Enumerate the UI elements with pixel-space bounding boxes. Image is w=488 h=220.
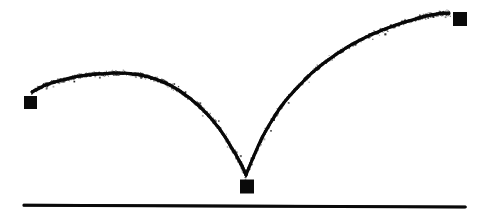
first-arc-grain [185, 91, 187, 93]
second-arc-grain [296, 88, 297, 89]
second-arc-grain [433, 16, 435, 18]
second-arc-grain [342, 51, 343, 52]
first-arc-grain [227, 146, 229, 148]
first-arc-grain [121, 73, 123, 75]
first-arc-grain [141, 73, 143, 75]
second-arc-grain [262, 135, 263, 136]
second-arc-grain [404, 20, 406, 22]
first-arc-grain [162, 81, 163, 82]
first-arc-grain [235, 158, 237, 160]
second-arc-grain [309, 82, 310, 83]
first-arc-grain [196, 104, 197, 105]
first-arc-grain [165, 82, 167, 84]
first-arc-grain [200, 105, 202, 107]
second-arc-grain [293, 90, 295, 92]
second-arc-grain [251, 157, 253, 159]
first-arc-grain [46, 88, 48, 90]
first-arc-grain [115, 71, 116, 72]
first-arc-grain [63, 81, 64, 82]
second-arc-grain [342, 47, 343, 48]
first-arc-grain [174, 87, 176, 89]
first-arc-grain [226, 134, 227, 135]
first-arc-grain [142, 73, 143, 74]
first-arc-grain [32, 93, 33, 94]
second-arc-grain [251, 161, 252, 162]
first-arc-grain [73, 81, 75, 83]
first-arc-grain [200, 107, 201, 108]
first-arc-grain [57, 78, 59, 80]
second-arc-grain [419, 15, 421, 17]
second-arc-grain [440, 13, 442, 15]
first-arc-grain [106, 71, 107, 72]
first-arc-grain [209, 113, 210, 114]
second-arc-grain [370, 37, 371, 38]
second-arc-grain [249, 169, 250, 170]
second-arc-grain [263, 138, 265, 140]
second-arc-grain [372, 39, 373, 40]
first-arc-grain [44, 85, 45, 86]
second-arc-grain [402, 20, 403, 21]
first-arc-grain [234, 152, 235, 153]
second-arc-grain [355, 44, 357, 46]
second-arc-grain [450, 16, 451, 17]
second-arc-grain [289, 94, 290, 95]
first-arc-grain [130, 75, 131, 76]
first-arc-grain [155, 79, 157, 81]
second-arc-grain [261, 144, 262, 145]
start-marker [24, 96, 37, 109]
second-arc-grain [427, 17, 429, 19]
second-arc-grain [439, 11, 441, 13]
second-arc-grain [418, 19, 419, 20]
second-arc-grain [270, 130, 272, 132]
first-arc-grain [218, 120, 220, 122]
first-arc-grain [99, 77, 101, 79]
first-arc-grain [173, 83, 175, 85]
second-arc-grain [280, 107, 282, 109]
first-arc-grain [96, 74, 97, 75]
first-arc-grain [244, 167, 245, 168]
second-arc-grain [416, 19, 417, 20]
first-arc-grain [202, 115, 204, 117]
second-arc-grain [360, 41, 361, 42]
first-arc-grain [215, 121, 216, 122]
first-arc-grain [63, 77, 65, 79]
first-arc-grain [94, 76, 96, 78]
second-arc-grain [348, 46, 350, 48]
first-arc-grain [236, 152, 238, 154]
second-arc-grain [368, 36, 370, 38]
second-arc-grain [273, 119, 275, 121]
second-arc-grain [393, 25, 394, 26]
first-arc-grain [244, 172, 246, 174]
end-marker [453, 12, 467, 26]
bounce-marker [240, 180, 254, 194]
first-arc-grain [38, 88, 40, 90]
second-arc-grain [245, 175, 246, 176]
first-arc-grain [78, 73, 80, 75]
first-arc-grain [228, 143, 229, 144]
second-arc-grain [254, 152, 255, 153]
first-arc-grain [199, 102, 201, 104]
second-arc-grain [264, 128, 265, 129]
second-arc-grain [329, 55, 330, 56]
second-arc-grain [445, 12, 447, 14]
first-arc-grain [240, 161, 242, 163]
first-arc-grain [110, 72, 111, 73]
second-arc-grain [337, 51, 339, 53]
first-arc-grain [240, 155, 242, 157]
first-arc-grain [140, 77, 142, 79]
second-arc-grain [317, 65, 318, 66]
second-arc-grain [288, 102, 290, 104]
second-arc-grain [387, 31, 388, 32]
first-arc-grain [245, 176, 246, 177]
second-arc-grain [252, 164, 253, 165]
first-arc-grain [123, 70, 124, 71]
first-arc-grain [53, 86, 55, 88]
second-arc-grain [384, 33, 386, 35]
trajectory-sketch-canvas [0, 0, 488, 220]
first-arc-grain [185, 95, 187, 97]
first-arc-grain [128, 73, 130, 75]
second-arc-grain [262, 136, 264, 138]
first-arc-grain [232, 150, 234, 152]
first-arc-grain [52, 83, 53, 84]
first-arc-grain [135, 76, 137, 78]
